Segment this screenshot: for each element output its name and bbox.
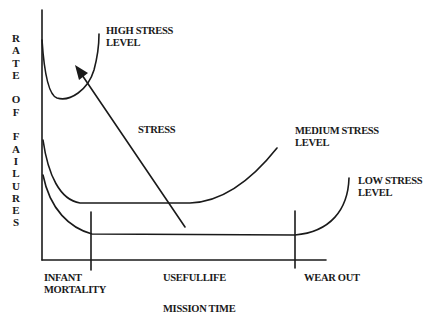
useful-life-label: USEFULLIFE bbox=[163, 272, 226, 284]
y-axis-label: RA TE OF FA IL UR ES bbox=[10, 32, 22, 229]
stress-label: STRESS bbox=[138, 124, 175, 136]
high-stress-curve bbox=[42, 34, 99, 99]
high-stress-label: HIGH STRESS LEVEL bbox=[106, 25, 173, 49]
low-stress-curve bbox=[43, 175, 349, 235]
medium-stress-label: MEDIUM STRESS LEVEL bbox=[295, 125, 379, 149]
low-stress-label: LOW STRESS LEVEL bbox=[358, 175, 422, 199]
x-axis-label: MISSION TIME bbox=[163, 303, 235, 315]
wear-out-label: WEAR OUT bbox=[304, 272, 360, 284]
medium-stress-curve bbox=[43, 140, 277, 203]
infant-mortality-label: INFANT MORTALITY bbox=[44, 272, 106, 296]
stress-arrow-head bbox=[75, 65, 88, 80]
